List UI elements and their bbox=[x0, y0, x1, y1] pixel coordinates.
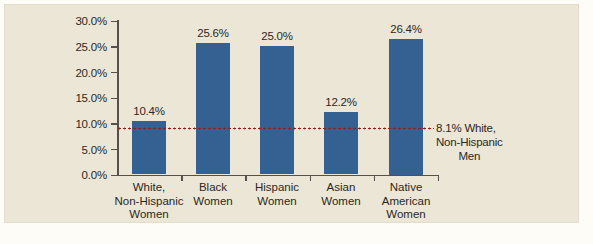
bar-native-american-women bbox=[389, 39, 423, 175]
y-tick-mark bbox=[111, 72, 117, 74]
x-axis-category-label-native-american-women: Native American Women bbox=[382, 181, 431, 222]
category-label-line: Non-Hispanic bbox=[114, 195, 183, 209]
bar-value-label: 25.6% bbox=[197, 27, 229, 39]
bar-value-label: 10.4% bbox=[133, 105, 165, 117]
reference-line-annotation-line-3: Men bbox=[436, 149, 503, 163]
y-tick-mark bbox=[111, 123, 117, 125]
x-tick-mark bbox=[310, 175, 312, 181]
category-label-line: Asian bbox=[321, 181, 360, 195]
y-tick-mark bbox=[111, 175, 117, 177]
y-tick-mark bbox=[111, 46, 117, 48]
y-axis-line bbox=[117, 20, 119, 176]
reference-line bbox=[117, 127, 434, 130]
category-label-line: Women bbox=[114, 208, 183, 222]
x-axis-category-label-hispanic-women: Hispanic Women bbox=[255, 181, 299, 208]
category-label-line: Women bbox=[193, 195, 232, 209]
y-axis-tick-label: 5.0% bbox=[47, 144, 107, 156]
plot-area: 0.0% 5.0% 10.0% 15.0% 20.0% 25.0% 30.0% bbox=[0, 0, 593, 244]
category-label-line: Women bbox=[321, 195, 360, 209]
bar-value-label: 25.0% bbox=[261, 30, 293, 42]
category-label-line: Hispanic bbox=[255, 181, 299, 195]
bar-hispanic-women bbox=[260, 46, 294, 174]
reference-line-annotation: 8.1% White, Non-Hispanic Men bbox=[436, 121, 503, 163]
bar-value-label: 26.4% bbox=[390, 23, 422, 35]
x-axis-line bbox=[117, 175, 438, 177]
x-axis-category-label-white-non-hispanic-women: White, Non-Hispanic Women bbox=[114, 181, 183, 222]
x-tick-mark bbox=[245, 175, 247, 181]
y-axis-tick-label: 25.0% bbox=[47, 41, 107, 53]
y-tick-mark bbox=[111, 21, 117, 23]
y-axis-tick-label: 0.0% bbox=[47, 169, 107, 181]
y-axis-tick-label: 20.0% bbox=[47, 67, 107, 79]
category-label-line: Women bbox=[255, 195, 299, 209]
category-label-line: White, bbox=[114, 181, 183, 195]
x-tick-mark bbox=[374, 175, 376, 181]
reference-line-annotation-line-1: 8.1% White, bbox=[436, 121, 503, 135]
bar-value-label: 12.2% bbox=[325, 96, 357, 108]
category-label-line: Native bbox=[382, 181, 431, 195]
category-label-line: Women bbox=[382, 208, 431, 222]
x-axis-category-label-black-women: Black Women bbox=[193, 181, 232, 208]
bar-black-women bbox=[196, 43, 230, 174]
x-axis-category-label-asian-women: Asian Women bbox=[321, 181, 360, 208]
y-axis-tick-label: 10.0% bbox=[47, 118, 107, 130]
y-axis-tick-label: 30.0% bbox=[47, 15, 107, 27]
y-tick-mark bbox=[111, 149, 117, 151]
reference-line-annotation-line-2: Non-Hispanic bbox=[436, 135, 503, 149]
y-axis-tick-label: 15.0% bbox=[47, 92, 107, 104]
bar-asian-women bbox=[324, 112, 358, 175]
category-label-line: American bbox=[382, 195, 431, 209]
category-label-line: Black bbox=[193, 181, 232, 195]
x-tick-mark bbox=[438, 175, 440, 181]
y-tick-mark bbox=[111, 98, 117, 100]
chart-figure: 0.0% 5.0% 10.0% 15.0% 20.0% 25.0% 30.0% bbox=[0, 0, 593, 244]
